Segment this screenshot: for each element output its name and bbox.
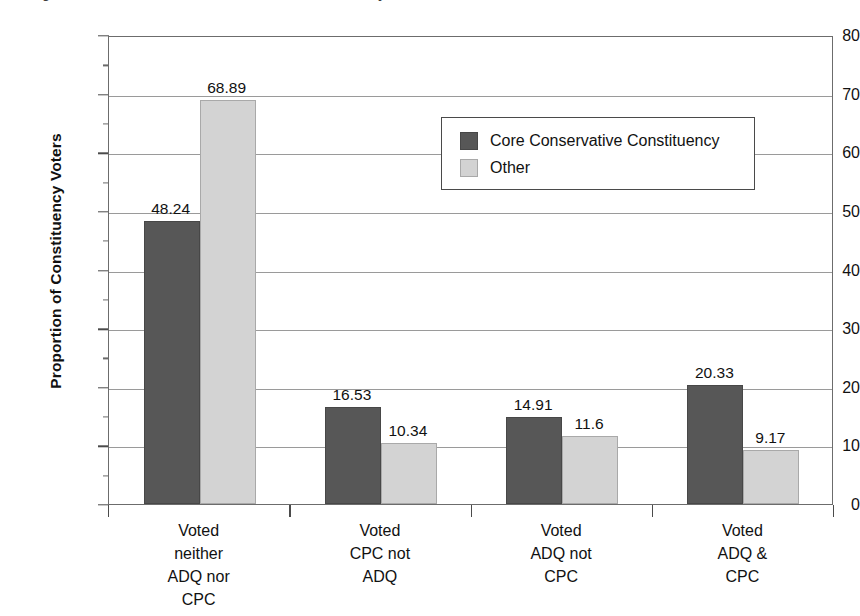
legend-item: Core Conservative Constituency — [460, 127, 754, 154]
bar — [506, 417, 562, 504]
x-category-label-line: CPC — [466, 565, 656, 588]
x-tick-mark — [833, 505, 834, 517]
x-category-label: VotedCPC notADQ — [285, 519, 475, 588]
bar — [144, 221, 200, 504]
x-tick-mark — [471, 505, 472, 517]
x-category-label-line: ADQ & — [647, 542, 837, 565]
bar — [381, 443, 437, 504]
x-category-label-line: CPC — [647, 565, 837, 588]
x-category-label: VotedADQ &CPC — [647, 519, 837, 588]
y-axis-title: Proportion of Constituency Voters — [47, 101, 65, 421]
x-category-label-line: Voted — [285, 519, 475, 542]
legend-item: Other — [460, 154, 754, 181]
bar-value-label: 20.33 — [695, 364, 734, 382]
bar — [743, 450, 799, 504]
x-category-label: VotedneitherADQ norCPC — [104, 519, 294, 611]
legend: Core Conservative Constituency Other — [441, 117, 755, 190]
bar-value-label: 9.17 — [755, 429, 785, 447]
bar-value-label: 11.6 — [575, 415, 604, 433]
chart-title-cropped: Figure 3: Vote choice of core conservati… — [30, 0, 830, 2]
x-tick-mark — [652, 505, 653, 517]
legend-swatch-core-icon — [460, 132, 478, 150]
bar-value-label: 68.89 — [207, 79, 246, 97]
bar-value-label: 14.91 — [514, 396, 553, 414]
legend-swatch-other-icon — [460, 159, 478, 177]
x-category-label: VotedADQ notCPC — [466, 519, 656, 588]
bar — [325, 407, 381, 504]
x-category-label-line: Voted — [647, 519, 837, 542]
bar-value-label: 10.34 — [388, 422, 427, 440]
legend-label: Other — [490, 159, 530, 177]
bar-value-label: 48.24 — [151, 200, 190, 218]
x-category-label-line: CPC — [104, 588, 294, 611]
x-category-label-line: CPC not — [285, 542, 475, 565]
bar — [562, 436, 618, 504]
bar — [687, 385, 743, 504]
x-tick-mark — [289, 505, 290, 517]
legend-label: Core Conservative Constituency — [490, 132, 719, 150]
bar-chart: Figure 3: Vote choice of core conservati… — [0, 0, 860, 616]
bar — [200, 100, 256, 504]
x-category-label-line: ADQ — [285, 565, 475, 588]
bar-value-label: 16.53 — [332, 386, 371, 404]
x-tick-mark — [108, 505, 109, 517]
x-category-label-line: Voted — [466, 519, 656, 542]
x-category-label-line: Voted — [104, 519, 294, 542]
x-category-label-line: neither — [104, 542, 294, 565]
x-category-label-line: ADQ not — [466, 542, 656, 565]
plot-area — [108, 36, 833, 505]
x-category-label-line: ADQ nor — [104, 565, 294, 588]
